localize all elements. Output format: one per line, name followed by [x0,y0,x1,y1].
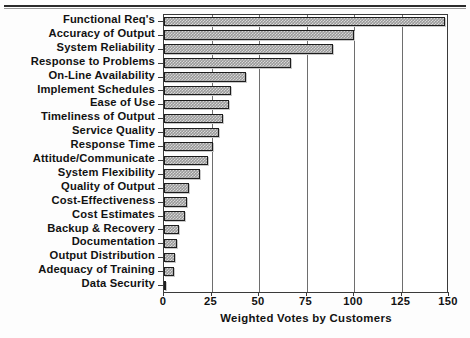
top-rule-thick [4,5,466,7]
category-label: Documentation [0,235,155,249]
category-tick [158,146,163,147]
top-rule-thin [4,8,466,9]
bar-implement-schedules[interactable] [164,86,231,95]
bar-row [164,210,449,224]
category-tick [158,118,163,119]
bar-row [164,71,449,85]
bar-response-time[interactable] [164,142,213,151]
category-label: Response Time [0,138,155,152]
bar-row [164,251,449,265]
category-label: Backup & Recovery [0,222,155,236]
category-label: Service Quality [0,124,155,138]
category-label: Cost Estimates [0,208,155,222]
category-tick [158,160,163,161]
bar-accuracy-of-output[interactable] [164,30,354,39]
category-tick [158,174,163,175]
bar-row [164,279,449,293]
bar-system-flexibility[interactable] [164,169,200,178]
bar-row [164,98,449,112]
category-label: System Flexibility [0,166,155,180]
bar-documentation[interactable] [164,239,177,248]
category-tick [158,35,163,36]
category-label: Attitude/Communicate [0,152,155,166]
category-tick [158,285,163,286]
category-label: Adequacy of Training [0,263,155,277]
category-tick [158,132,163,133]
bar-row [164,29,449,43]
bar-row [164,154,449,168]
bar-row [164,237,449,251]
bar-row [164,182,449,196]
category-tick [158,21,163,22]
bar-row [164,265,449,279]
bar-on-line-availability[interactable] [164,72,246,81]
bar-row [164,196,449,210]
bars-group [164,15,447,292]
bar-response-to-problems[interactable] [164,58,291,67]
bar-row [164,85,449,99]
category-tick [158,77,163,78]
bar-timeliness-of-output[interactable] [164,114,223,123]
bar-backup-recovery[interactable] [164,225,179,234]
bar-cost-effectiveness[interactable] [164,197,187,206]
x-tick-label-25: 25 [191,295,231,307]
category-tick [158,229,163,230]
bar-output-distribution[interactable] [164,253,175,262]
x-tick-label-75: 75 [286,295,326,307]
category-label: Implement Schedules [0,83,155,97]
bar-row [164,112,449,126]
category-label: Response to Problems [0,55,155,69]
bar-row [164,224,449,238]
category-tick [158,49,163,50]
category-label: Accuracy of Output [0,27,155,41]
category-tick [158,63,163,64]
category-label: Ease of Use [0,96,155,110]
bar-row [164,140,449,154]
category-tick [158,216,163,217]
x-tick-label-0: 0 [143,295,183,307]
bar-row [164,43,449,57]
bar-service-quality[interactable] [164,128,219,137]
category-label: System Reliability [0,41,155,55]
category-tick [158,243,163,244]
category-tick [158,90,163,91]
category-tick [158,104,163,105]
bar-quality-of-output[interactable] [164,183,189,192]
bar-data-security[interactable] [164,281,166,290]
bar-cost-estimates[interactable] [164,211,185,220]
bar-functional-req-s[interactable] [164,17,445,26]
category-tick [158,271,163,272]
x-tick-label-150: 150 [428,295,468,307]
x-tick-label-125: 125 [381,295,421,307]
category-label: Cost-Effectiveness [0,194,155,208]
category-tick [158,202,163,203]
x-axis-title: Weighted Votes by Customers [163,312,449,324]
bar-system-reliability[interactable] [164,44,333,53]
bar-attitude-communicate[interactable] [164,156,208,165]
x-tick-label-50: 50 [238,295,278,307]
bar-row [164,168,449,182]
category-tick [158,188,163,189]
category-tick [158,257,163,258]
bar-chart: Functional Req'sAccuracy of OutputSystem… [0,0,470,338]
category-label: Output Distribution [0,249,155,263]
bar-ease-of-use[interactable] [164,100,229,109]
category-label: Timeliness of Output [0,110,155,124]
category-label: Data Security [0,277,155,291]
bar-row [164,126,449,140]
x-tick-label-100: 100 [333,295,373,307]
bar-row [164,15,449,29]
category-label: On-Line Availability [0,69,155,83]
bar-row [164,57,449,71]
category-label: Quality of Output [0,180,155,194]
plot-area [163,14,448,292]
bar-adequacy-of-training[interactable] [164,267,174,276]
category-label: Functional Req's [0,13,155,27]
